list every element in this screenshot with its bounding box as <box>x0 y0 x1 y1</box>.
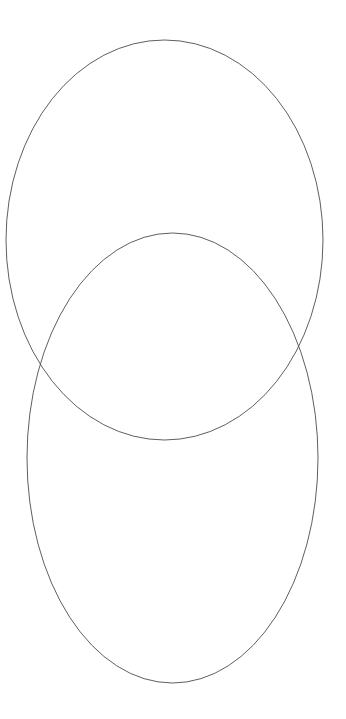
diagram-canvas <box>0 0 346 719</box>
ellipses-figure <box>0 0 346 719</box>
canvas-background <box>0 0 346 719</box>
